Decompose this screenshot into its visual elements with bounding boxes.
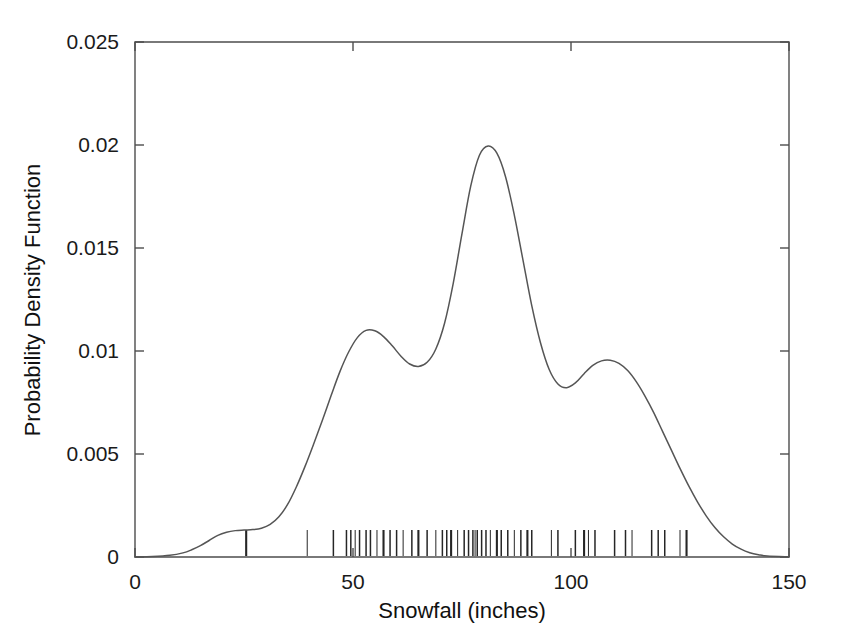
x-axis-ticks [135,42,789,557]
chart-figure: 00.0050.010.0150.020.025 050100150 Snowf… [0,0,845,644]
x-tick-label: 0 [129,570,141,593]
density-plot-svg: 00.0050.010.0150.020.025 050100150 Snowf… [0,0,845,644]
y-tick-label: 0.005 [66,442,119,465]
x-axis-title: Snowfall (inches) [378,598,546,623]
y-axis-tick-labels: 00.0050.010.0150.020.025 [66,30,119,568]
density-curve [135,146,789,557]
x-tick-label: 150 [771,570,806,593]
x-tick-label: 50 [341,570,364,593]
plot-frame [135,42,789,557]
y-tick-label: 0.01 [78,339,119,362]
y-tick-label: 0.02 [78,133,119,156]
x-tick-label: 100 [553,570,588,593]
y-axis-title: Probability Density Function [20,164,45,437]
y-tick-label: 0.015 [66,236,119,259]
y-tick-label: 0 [107,545,119,568]
y-tick-label: 0.025 [66,30,119,53]
axis-frame-path [135,42,789,557]
x-axis-tick-labels: 050100150 [129,570,806,593]
y-axis-ticks [135,42,789,557]
rug-marks-group [246,530,686,556]
